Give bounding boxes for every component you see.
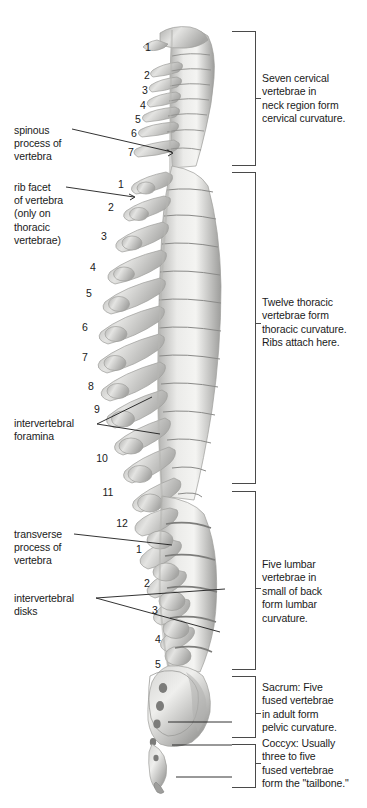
bracket-thoracic xyxy=(232,172,256,484)
note-sacrum: Sacrum: Five fused vertebrae in adult fo… xyxy=(262,681,337,735)
callout-transverse-process: transverse process of vertebra xyxy=(14,528,62,568)
vertebra-number-lumbar-1: 1 xyxy=(132,544,146,555)
vertebra-number-thoracic-3: 3 xyxy=(97,231,111,242)
vertebra-number-thoracic-11: 11 xyxy=(101,487,115,498)
bracket-lumbar xyxy=(232,491,256,670)
vertebra-number-lumbar-5: 5 xyxy=(151,659,165,670)
vertebra-number-cervical-3: 3 xyxy=(138,85,152,96)
vertebra-number-thoracic-9: 9 xyxy=(90,404,104,415)
vertebra-number-lumbar-3: 3 xyxy=(148,605,162,616)
foramina-leader-upper xyxy=(97,397,152,424)
callout-rib-facet: rib facet of vertebra (only on thoracic … xyxy=(14,181,63,247)
vertebra-number-lumbar-2: 2 xyxy=(140,578,154,589)
foramina-leader-lower xyxy=(97,424,160,434)
note-coccyx: Coccyx: Usually three to five fused vert… xyxy=(262,737,349,791)
vertebra-number-thoracic-8: 8 xyxy=(84,381,98,392)
callout-intervertebral-foramina: intervertebral foramina xyxy=(14,417,74,443)
vertebra-number-cervical-2: 2 xyxy=(140,70,154,81)
vertebra-number-cervical-6: 6 xyxy=(127,128,141,139)
vertebra-number-thoracic-7: 7 xyxy=(78,352,92,363)
bracket-tick-lumbar xyxy=(256,588,261,589)
bracket-cervical xyxy=(232,31,256,166)
bracket-coccyx xyxy=(232,744,256,788)
vertebra-number-cervical-4: 4 xyxy=(136,100,150,111)
callout-intervertebral-disks: intervertebral disks xyxy=(14,592,74,618)
vertebra-number-cervical-1: 1 xyxy=(141,42,155,53)
vertebral-column-figure: spinous process of vertebra rib facet of… xyxy=(0,0,367,808)
note-cervical: Seven cervical vertebrae in neck region … xyxy=(262,72,345,126)
disks-leader-upper xyxy=(96,589,225,598)
vertebra-number-thoracic-10: 10 xyxy=(95,453,109,464)
vertebra-number-cervical-5: 5 xyxy=(131,114,145,125)
note-thoracic: Twelve thoracic vertebrae form thoracic … xyxy=(262,296,346,350)
bracket-sacrum xyxy=(232,676,256,738)
vertebra-number-thoracic-6: 6 xyxy=(78,322,92,333)
vertebra-number-thoracic-5: 5 xyxy=(82,288,96,299)
vertebra-number-thoracic-4: 4 xyxy=(86,262,100,273)
vertebra-number-lumbar-4: 4 xyxy=(151,634,165,645)
callout-spinous-process: spinous process of vertebra xyxy=(14,124,61,164)
bracket-tick-coccyx xyxy=(256,763,261,764)
transverse-process-leader xyxy=(74,534,172,545)
spinous-process-leader xyxy=(72,129,172,152)
vertebra-number-thoracic-1: 1 xyxy=(114,179,128,190)
bracket-tick-cervical xyxy=(256,98,261,99)
spinous-arrowhead xyxy=(167,150,173,156)
bracket-tick-sacrum xyxy=(256,713,261,714)
vertebra-number-cervical-7: 7 xyxy=(124,147,138,158)
vertebra-number-thoracic-12: 12 xyxy=(115,518,129,529)
note-lumbar: Five lumbar vertebrae in small of back f… xyxy=(262,558,322,625)
vertebra-number-thoracic-2: 2 xyxy=(104,202,118,213)
bracket-tick-thoracic xyxy=(256,323,261,324)
